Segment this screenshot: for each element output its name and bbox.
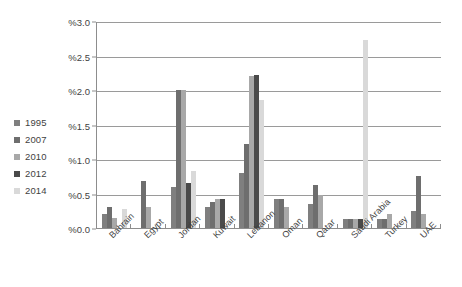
x-axis-tick-mark bbox=[440, 224, 441, 228]
y-axis-tick-label: %1.5 bbox=[68, 120, 90, 131]
bar-group bbox=[303, 22, 337, 228]
legend-item-label: 2010 bbox=[25, 151, 47, 162]
y-axis-tick-label: %3.0 bbox=[68, 17, 90, 28]
y-axis-tick-label: %0.5 bbox=[68, 189, 90, 200]
y-axis-tick-label: %2.5 bbox=[68, 51, 90, 62]
bar-group bbox=[372, 22, 406, 228]
legend-swatch-icon bbox=[14, 171, 20, 177]
legend-item-label: 2014 bbox=[25, 185, 47, 196]
y-axis-tick-label: %1.0 bbox=[68, 155, 90, 166]
legend-swatch-icon bbox=[14, 154, 20, 160]
bar-group bbox=[407, 22, 441, 228]
legend-swatch-icon bbox=[14, 188, 20, 194]
bar-group bbox=[338, 22, 372, 228]
bar-group bbox=[269, 22, 303, 228]
legend-item-label: 2012 bbox=[25, 168, 47, 179]
y-axis: %3.0%2.5%2.0%1.5%1.0%0.5%0.0 bbox=[58, 22, 96, 229]
legend-swatch-icon bbox=[14, 137, 20, 143]
legend-swatch-icon bbox=[14, 120, 20, 126]
y-axis-tick-label: %2.0 bbox=[68, 86, 90, 97]
plot-area bbox=[96, 22, 441, 229]
bar-group bbox=[97, 22, 131, 228]
x-axis-labels: BahrainEgyptJordanKuwaitLebanonOmanQatar… bbox=[96, 233, 441, 287]
y-axis-tick-label: %0.0 bbox=[68, 224, 90, 235]
legend-item-label: 2007 bbox=[25, 134, 47, 145]
bar-group bbox=[166, 22, 200, 228]
bar-group bbox=[131, 22, 165, 228]
bar-chart: 19952007201020122014 %3.0%2.5%2.0%1.5%1.… bbox=[0, 0, 462, 287]
bar-group bbox=[200, 22, 234, 228]
bar-groups bbox=[97, 22, 441, 228]
bar[interactable] bbox=[363, 40, 368, 228]
bar[interactable] bbox=[259, 100, 264, 228]
bar-group bbox=[235, 22, 269, 228]
legend-item-label: 1995 bbox=[25, 117, 47, 128]
